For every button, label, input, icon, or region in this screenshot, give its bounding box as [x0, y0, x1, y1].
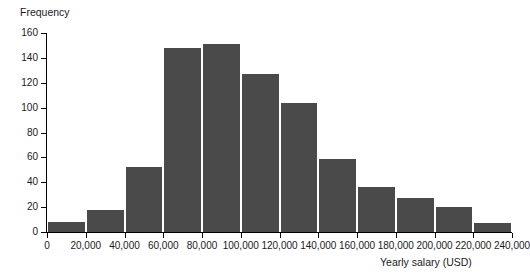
x-axis-tick-label: 0	[44, 240, 50, 251]
x-axis-tick	[47, 233, 48, 238]
histogram-bar	[242, 74, 279, 232]
y-axis-tick-label: 100	[21, 103, 38, 113]
y-axis-title: Frequency	[20, 6, 70, 18]
x-axis-tick-label: 120,000	[261, 240, 297, 251]
x-axis-tick	[241, 233, 242, 238]
histogram-bar	[358, 187, 395, 232]
histogram-bar	[203, 44, 240, 232]
y-axis-tick	[41, 108, 46, 109]
y-axis-tick-label-wrap: 40	[10, 177, 38, 187]
histogram-bar	[87, 210, 124, 232]
x-axis-tick	[163, 233, 164, 238]
y-axis-tick-label: 40	[27, 177, 38, 187]
y-axis-tick	[41, 207, 46, 208]
x-axis-tick	[435, 233, 436, 238]
x-axis-tick	[280, 233, 281, 238]
x-axis-tick	[512, 233, 513, 238]
y-axis-tick-label-wrap: 0	[10, 227, 38, 237]
y-axis-tick	[41, 157, 46, 158]
y-axis-tick	[41, 83, 46, 84]
y-axis-tick-label-wrap: 160	[10, 28, 38, 38]
y-axis-tick-label-wrap: 20	[10, 202, 38, 212]
x-axis-tick	[396, 233, 397, 238]
histogram-bar	[319, 159, 356, 232]
y-axis-tick-label: 140	[21, 53, 38, 63]
y-axis-tick-label: 120	[21, 78, 38, 88]
y-axis-tick	[41, 232, 46, 233]
x-axis-tick-label: 20,000	[70, 240, 101, 251]
y-axis-tick	[41, 33, 46, 34]
x-axis-tick-label: 60,000	[148, 240, 179, 251]
x-axis-tick-label: 160,000	[339, 240, 375, 251]
y-axis-tick-label-wrap: 120	[10, 78, 38, 88]
x-axis-tick	[357, 233, 358, 238]
y-axis-tick-label: 20	[27, 202, 38, 212]
y-axis-tick-label-wrap: 100	[10, 103, 38, 113]
x-axis-tick-label: 220,000	[455, 240, 491, 251]
plot-area	[47, 33, 512, 232]
histogram-bar	[126, 167, 163, 232]
histogram-bar	[164, 48, 201, 232]
y-axis-tick-label-wrap: 60	[10, 152, 38, 162]
histogram-bar	[48, 222, 85, 232]
x-axis-tick-label: 180,000	[378, 240, 414, 251]
x-axis-tick	[473, 233, 474, 238]
y-axis-tick-label: 0	[32, 227, 38, 237]
x-axis-tick-label: 140,000	[300, 240, 336, 251]
y-axis-tick-label-wrap: 140	[10, 53, 38, 63]
y-axis-tick	[41, 133, 46, 134]
y-axis-tick-label: 60	[27, 152, 38, 162]
x-axis-tick	[202, 233, 203, 238]
x-axis-tick-label: 200,000	[416, 240, 452, 251]
x-axis-tick-label: 80,000	[187, 240, 218, 251]
y-axis-tick	[41, 182, 46, 183]
y-axis-tick-label: 80	[27, 128, 38, 138]
y-axis-tick	[41, 58, 46, 59]
x-axis-title: Yearly salary (USD)	[380, 256, 472, 268]
histogram-bar	[281, 103, 318, 232]
histogram-bar	[397, 198, 434, 232]
x-axis-tick-label: 240,000	[494, 240, 530, 251]
x-axis-tick	[86, 233, 87, 238]
x-axis-tick	[125, 233, 126, 238]
x-axis-tick	[318, 233, 319, 238]
y-axis-tick-label: 160	[21, 28, 38, 38]
x-axis-tick-label: 100,000	[223, 240, 259, 251]
histogram-bar	[436, 207, 473, 232]
y-axis-tick-label-wrap: 80	[10, 128, 38, 138]
histogram-bar	[474, 223, 511, 232]
x-axis-tick-label: 40,000	[109, 240, 140, 251]
